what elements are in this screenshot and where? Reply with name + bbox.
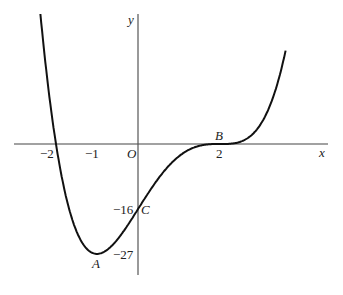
y-tick-minus-16: −16 [113,202,134,217]
x-tick-minus-1: −1 [85,146,99,161]
y-tick-minus-27: −27 [113,247,134,262]
y-axis-label: y [126,12,134,27]
point-A-label: A [91,256,100,271]
point-B-label: B [215,128,223,143]
x-tick-minus-2: −2 [40,146,54,161]
x-tick-2: 2 [216,146,223,161]
origin-label: O [127,146,137,161]
cubic-quartic-graph: y x O −2 −1 2 −16 −27 A B C [0,0,343,295]
function-curve [40,14,285,254]
x-axis-label: x [318,145,325,160]
point-C-label: C [141,202,150,217]
